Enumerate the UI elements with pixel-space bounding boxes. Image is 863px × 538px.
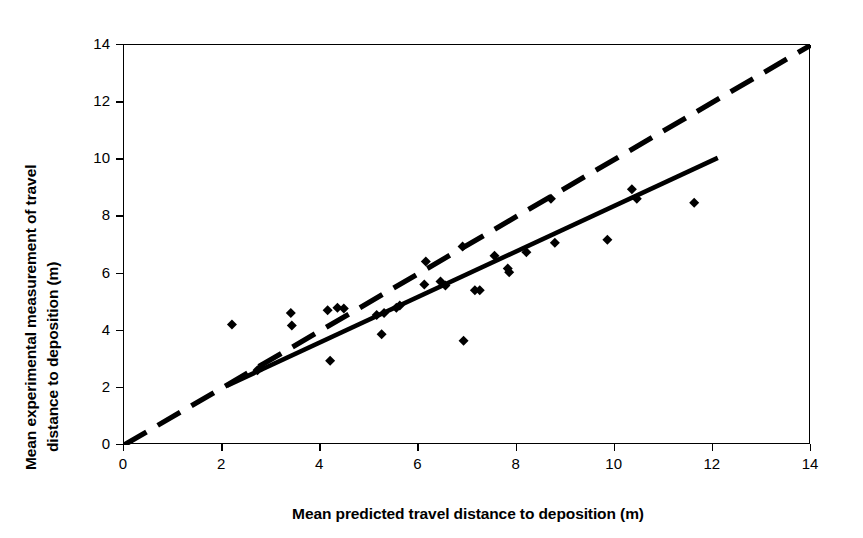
- x-axis-label: Mean predicted travel distance to deposi…: [123, 505, 813, 523]
- plot-area: [123, 44, 810, 444]
- x-axis-tick-label: 12: [692, 455, 732, 472]
- y-axis-tick-label: 6: [76, 264, 110, 281]
- y-axis-label-line-2: distance to deposition (m): [44, 262, 62, 452]
- y-axis-tick-label: 14: [76, 35, 110, 52]
- x-axis-tick: [123, 444, 124, 451]
- y-axis-tick: [116, 101, 123, 102]
- y-axis-label-line-1: Mean experimental measurement of travel: [22, 165, 40, 470]
- data-point: [419, 279, 429, 289]
- data-point: [550, 238, 560, 248]
- x-axis-tick: [417, 444, 418, 451]
- x-axis-tick: [712, 444, 713, 451]
- y-axis-tick-label: 12: [76, 92, 110, 109]
- data-point: [227, 319, 237, 329]
- x-axis-tick: [516, 444, 517, 451]
- y-axis-tick-label: 4: [76, 321, 110, 338]
- x-axis-tick-label: 6: [397, 455, 437, 472]
- data-point: [325, 356, 335, 366]
- y-axis-tick: [116, 158, 123, 159]
- regression-line: [227, 158, 718, 386]
- data-point: [627, 184, 637, 194]
- x-axis-tick-label: 0: [103, 455, 143, 472]
- y-axis-label: Mean experimental measurement of travel …: [0, 0, 84, 500]
- x-axis-tick-label: 8: [496, 455, 536, 472]
- data-point: [377, 329, 387, 339]
- y-axis-tick-label: 2: [76, 378, 110, 395]
- y-axis-tick: [116, 387, 123, 388]
- x-axis-tick-label: 4: [299, 455, 339, 472]
- scatter-plot-figure: Mean experimental measurement of travel …: [0, 0, 863, 538]
- y-axis-tick: [116, 44, 123, 45]
- data-point: [689, 198, 699, 208]
- data-point: [602, 235, 612, 245]
- data-point: [286, 308, 296, 318]
- x-axis-tick: [221, 444, 222, 451]
- y-axis-tick-label: 10: [76, 149, 110, 166]
- data-point: [287, 321, 297, 331]
- data-point: [459, 336, 469, 346]
- y-axis-tick: [116, 330, 123, 331]
- y-axis-tick-label: 8: [76, 206, 110, 223]
- x-axis-tick: [614, 444, 615, 451]
- x-axis-tick-label: 14: [790, 455, 830, 472]
- x-axis-tick: [319, 444, 320, 451]
- x-axis-tick: [810, 444, 811, 451]
- y-axis-tick: [116, 215, 123, 216]
- x-axis-tick-label: 2: [201, 455, 241, 472]
- data-point: [339, 303, 349, 313]
- y-axis-tick: [116, 273, 123, 274]
- y-axis-tick: [116, 444, 123, 445]
- y-axis-tick-label: 0: [76, 435, 110, 452]
- plot-canvas: [124, 45, 811, 445]
- data-point: [323, 305, 333, 315]
- x-axis-tick-label: 10: [594, 455, 634, 472]
- data-point: [546, 194, 556, 204]
